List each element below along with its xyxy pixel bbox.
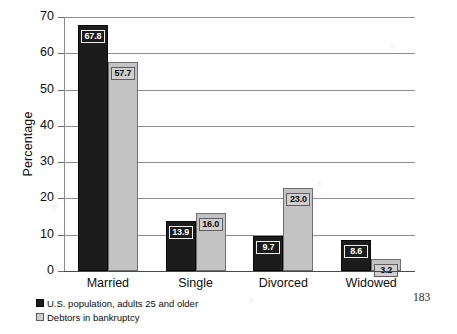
data-label-divorced-series2: 23.0 (286, 193, 310, 206)
legend-label-series2: Debtors in bankruptcy (47, 312, 139, 323)
y-tick-label: 40 (8, 118, 54, 132)
y-tick-label: 0 (8, 263, 54, 277)
data-label-widowed-series1: 8.6 (344, 245, 368, 258)
gridline (64, 53, 415, 54)
bar-chart-figure: Percentage 706050403020100 67.857.713.91… (0, 0, 457, 334)
legend-item-series2: Debtors in bankruptcy (36, 311, 198, 323)
data-label-single-series2: 16.0 (199, 218, 223, 231)
legend-item-series1: U.S. population, adults 25 and older (36, 297, 198, 309)
legend-swatch-series1 (36, 299, 44, 307)
y-tick-label: 10 (8, 227, 54, 241)
data-label-single-series1: 13.9 (169, 226, 193, 239)
gridline (64, 17, 415, 18)
category-label-divorced: Divorced (233, 276, 333, 290)
page-number: 183 (413, 291, 430, 303)
category-label-widowed: Widowed (321, 276, 421, 290)
y-tick-label: 50 (8, 82, 54, 96)
legend-swatch-series2 (36, 313, 44, 321)
category-label-single: Single (146, 276, 246, 290)
y-tick-label: 60 (8, 45, 54, 59)
y-axis-line (64, 17, 65, 272)
data-label-married-series2: 57.7 (111, 67, 135, 80)
plot-area: 67.857.713.916.09.723.08.63.2 (64, 17, 415, 272)
y-tick-label: 30 (8, 154, 54, 168)
x-axis-line (64, 271, 415, 272)
y-tick-label: 20 (8, 190, 54, 204)
legend-label-series1: U.S. population, adults 25 and older (47, 298, 198, 309)
data-label-married-series1: 67.8 (81, 30, 105, 43)
data-label-divorced-series1: 9.7 (256, 241, 280, 254)
bar-married-series1 (78, 25, 108, 271)
bar-married-series2 (108, 62, 138, 271)
chart-legend: U.S. population, adults 25 and olderDebt… (36, 297, 198, 325)
y-tick-label: 70 (8, 9, 54, 23)
category-label-married: Married (58, 276, 158, 290)
